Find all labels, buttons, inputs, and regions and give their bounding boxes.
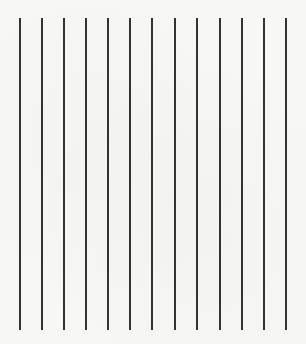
vertical-line — [19, 18, 21, 330]
vertical-line — [263, 18, 265, 330]
vertical-line — [107, 18, 109, 330]
vertical-line — [41, 18, 43, 330]
vertical-line — [85, 18, 87, 330]
paper-background — [0, 0, 306, 344]
vertical-line — [129, 18, 131, 330]
vertical-line — [285, 18, 287, 330]
vertical-line — [63, 18, 65, 330]
vertical-line — [151, 18, 153, 330]
vertical-line — [174, 18, 176, 330]
vertical-line — [241, 18, 243, 330]
vertical-line — [219, 18, 221, 330]
vertical-line — [196, 18, 198, 330]
